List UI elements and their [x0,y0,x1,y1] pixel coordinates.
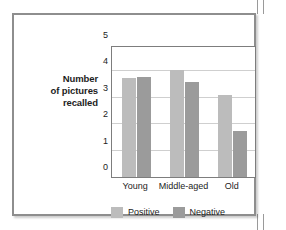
legend-label: Negative [190,207,226,217]
y-axis-tick-label: 5 [96,30,108,40]
page-edge-rule [263,0,264,14]
y-axis-tick-label: 4 [96,56,108,66]
y-axis-title-line-1: Number [20,73,98,85]
legend-item: Positive [111,207,160,218]
x-axis-tick-label: Middle-aged [159,181,209,191]
figure-frame: Number of pictures recalled 543210 Young… [12,13,256,216]
y-axis-title-line-2: of pictures [20,85,98,97]
bar [185,82,199,177]
y-axis-tick-labels: 543210 [94,46,108,178]
x-axis-tick-label: Young [123,181,148,191]
bars-layer [112,47,255,177]
legend-swatch-icon [173,207,185,218]
y-axis-title: Number of pictures recalled [20,73,98,109]
legend-item: Negative [173,207,226,218]
page-edge-rule [263,214,264,230]
plot-area [111,46,256,178]
y-axis-title-line-3: recalled [20,97,98,109]
bar [218,95,232,177]
bar [137,77,151,177]
legend-label: Positive [128,207,160,217]
y-axis-tick-label: 1 [96,136,108,146]
legend-swatch-icon [111,207,123,218]
bar [170,70,184,177]
x-axis-tick-label: Old [225,181,239,191]
x-axis-tick-labels: YoungMiddle-agedOld [111,181,256,195]
bar [122,78,136,177]
chart-legend: PositiveNegative [111,205,261,219]
y-axis-tick-label: 2 [96,109,108,119]
page-edge-rule [257,0,258,14]
bar [233,131,247,177]
y-axis-tick-label: 3 [96,83,108,93]
y-axis-tick-label: 0 [96,162,108,172]
